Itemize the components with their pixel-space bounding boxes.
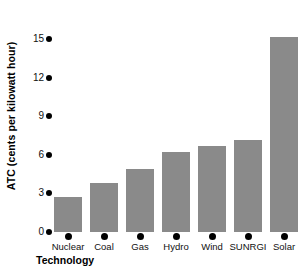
x-axis-tick-dot-icon <box>281 233 288 240</box>
bar-slot <box>234 20 263 232</box>
x-axis-tick-dot-icon <box>137 233 144 240</box>
y-axis-title: ATC (cents per kilowatt hour) <box>0 0 22 232</box>
bar-slot <box>54 20 83 232</box>
y-axis-tick-label: 6 <box>22 149 44 161</box>
bar <box>90 183 119 232</box>
y-axis-tick-label: 3 <box>22 187 44 199</box>
bar-slot <box>126 20 155 232</box>
x-axis-tick-dot-icon <box>173 233 180 240</box>
plot-area <box>50 20 302 232</box>
bar <box>126 169 155 232</box>
bar <box>198 146 227 232</box>
y-axis-tick-label: 9 <box>22 110 44 122</box>
bar <box>270 37 299 232</box>
bar-slot <box>90 20 119 232</box>
x-axis-title: Technology <box>36 254 94 266</box>
bar <box>234 140 263 233</box>
bar-slot <box>270 20 299 232</box>
bar <box>162 152 191 232</box>
x-axis-tick-dot-icon <box>101 233 108 240</box>
bar-slot <box>162 20 191 232</box>
bar-slot <box>198 20 227 232</box>
bar <box>54 197 83 232</box>
bar-chart: ATC (cents per kilowatt hour) 03691215 N… <box>0 0 306 269</box>
y-axis-title-text: ATC (cents per kilowatt hour) <box>5 42 17 191</box>
x-axis-tick-dot-icon <box>209 233 216 240</box>
y-axis-tick-label: 12 <box>22 72 44 84</box>
x-axis-tick-dot-icon <box>245 233 252 240</box>
y-axis-tick-label: 0 <box>22 226 44 238</box>
y-axis-tick-label: 15 <box>22 33 44 45</box>
x-axis-tick-dot-icon <box>65 233 72 240</box>
x-axis-category-label: Solar <box>252 241 306 252</box>
